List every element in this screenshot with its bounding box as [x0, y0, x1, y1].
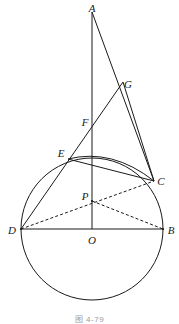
figure-caption: 图 4-79 — [0, 315, 179, 324]
vertex-dot-P — [91, 200, 93, 202]
point-label-A: A — [89, 3, 96, 14]
point-label-C: C — [157, 176, 164, 187]
segment-P-B — [92, 201, 163, 229]
point-label-G: G — [124, 79, 132, 90]
point-label-E: E — [58, 148, 65, 159]
vertex-dot-B — [162, 228, 164, 230]
geometry-figure: A G F E C P D B O 图 4-79 — [0, 0, 179, 324]
point-label-P: P — [82, 191, 89, 202]
segment-D-C — [21, 181, 154, 229]
vertex-dot-D — [20, 228, 22, 230]
segment-E-C — [68, 159, 154, 181]
segment-A-C — [92, 12, 154, 181]
geometry-canvas — [0, 0, 179, 324]
point-label-B: B — [168, 225, 175, 236]
point-label-D: D — [8, 225, 16, 236]
point-label-F: F — [82, 117, 89, 128]
segment-G-C — [123, 82, 154, 181]
point-label-O: O — [88, 235, 96, 246]
